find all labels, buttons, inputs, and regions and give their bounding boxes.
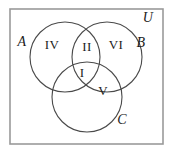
region-label-i: I: [80, 66, 85, 79]
region-label-ii: II: [82, 40, 91, 53]
set-label-c: C: [117, 113, 127, 127]
universal-set-label: U: [143, 11, 153, 25]
region-label-vi: VI: [109, 38, 123, 51]
region-label-v: V: [98, 84, 108, 97]
region-label-iv: IV: [45, 38, 59, 51]
set-circle-c: [52, 62, 122, 132]
set-label-a: A: [18, 35, 27, 49]
set-circle-b: [72, 22, 142, 92]
set-label-b: B: [137, 36, 146, 50]
venn-diagram-figure: U A B C IV II VI I V: [0, 0, 173, 156]
set-circle-a: [30, 22, 100, 92]
